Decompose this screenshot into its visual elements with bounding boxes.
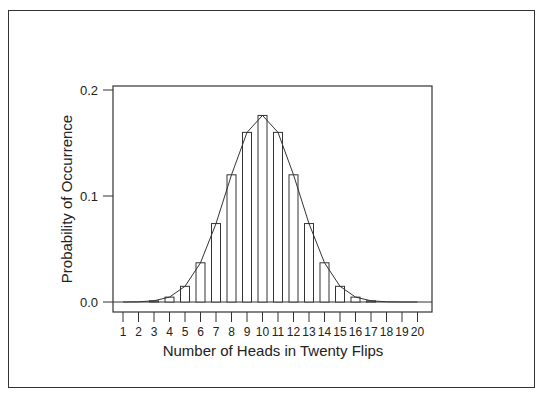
bar-7 [212, 224, 221, 302]
y-axis: 0.00.10.2 [80, 83, 113, 310]
x-tick-label: 2 [135, 325, 142, 339]
x-tick-label: 4 [166, 325, 173, 339]
x-axis-label: Number of Heads in Twenty Flips [163, 342, 384, 359]
x-tick-label: 11 [272, 325, 285, 339]
bar-13 [305, 224, 314, 302]
bar-9 [243, 132, 252, 302]
x-tick-label: 6 [197, 325, 204, 339]
y-tick-label: 0.0 [80, 295, 98, 310]
bar-8 [227, 175, 236, 302]
x-tick-label: 8 [228, 325, 235, 339]
x-tick-label: 16 [349, 325, 363, 339]
x-tick-label: 17 [364, 325, 378, 339]
x-tick-label: 15 [333, 325, 347, 339]
x-tick-label: 10 [256, 325, 270, 339]
bar-12 [289, 175, 298, 302]
x-tick-label: 13 [302, 325, 316, 339]
y-axis-label: Probability of Occurrence [58, 115, 75, 283]
x-tick-label: 19 [395, 325, 409, 339]
bar-6 [196, 263, 205, 302]
x-tick-label: 20 [411, 325, 425, 339]
y-tick-label: 0.2 [80, 83, 98, 98]
y-tick-label: 0.1 [80, 189, 98, 204]
bar-10 [258, 115, 267, 302]
x-tick-label: 12 [287, 325, 301, 339]
x-tick-label: 1 [120, 325, 127, 339]
x-tick-label: 14 [318, 325, 332, 339]
chart: 0.00.10.2 123456789101112131415161718192… [0, 0, 542, 393]
probability-curve [123, 115, 418, 302]
x-tick-label: 9 [244, 325, 251, 339]
bar-14 [320, 263, 329, 302]
x-tick-label: 3 [151, 325, 158, 339]
x-tick-label: 7 [213, 325, 220, 339]
x-axis: 1234567891011121314151617181920 [120, 312, 425, 339]
x-tick-label: 5 [182, 325, 189, 339]
bars [150, 115, 376, 302]
bar-11 [274, 132, 283, 302]
x-tick-label: 18 [380, 325, 394, 339]
plot-area [113, 86, 432, 312]
